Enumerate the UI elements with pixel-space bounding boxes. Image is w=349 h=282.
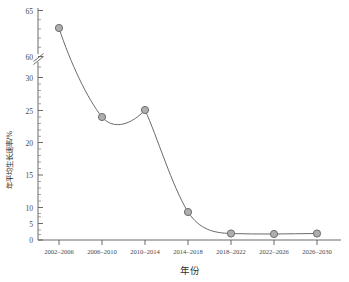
y-tick-label: 20 [25,139,33,148]
x-tick-label: 2006–2010 [87,248,117,255]
y-axis-break-icon [34,54,44,65]
data-point[interactable] [184,208,191,215]
x-tick-label: 2022–2026 [259,248,289,255]
data-point[interactable] [55,24,62,31]
data-point[interactable] [270,230,277,237]
x-tick-label: 2014–2018 [173,248,203,255]
x-tick-label: 2002–2006 [44,248,74,255]
chart-container: 65 60 30 25 20 15 10 5 0 [0,0,349,282]
series-line [59,28,317,234]
y-tick-label: 10 [25,204,33,213]
x-axis-title: 年份 [180,265,200,276]
y-tick-label: 25 [25,107,33,116]
data-point[interactable] [141,106,148,113]
series-markers [55,24,320,237]
x-axis-ticks: 2002–2006 2006–2010 2010–2014 2014–2018 … [44,240,332,255]
y-axis-title: 年平均生长速率/% [5,131,14,190]
data-point[interactable] [98,113,105,120]
y-tick-label: 30 [25,74,33,83]
y-tick-label: 5 [29,220,33,229]
y-tick-label: 0 [29,236,33,245]
y-tick-label: 65 [25,7,33,16]
y-axis-ticks: 65 60 30 25 20 15 10 5 0 [25,7,43,246]
x-tick-label: 2026–2030 [302,248,332,255]
data-point[interactable] [227,230,234,237]
y-tick-label: 60 [25,53,33,62]
x-tick-label: 2018–2022 [216,248,246,255]
x-tick-label: 2010–2014 [130,248,160,255]
line-chart: 65 60 30 25 20 15 10 5 0 [0,0,349,282]
y-tick-label: 15 [25,171,33,180]
data-point[interactable] [313,230,320,237]
